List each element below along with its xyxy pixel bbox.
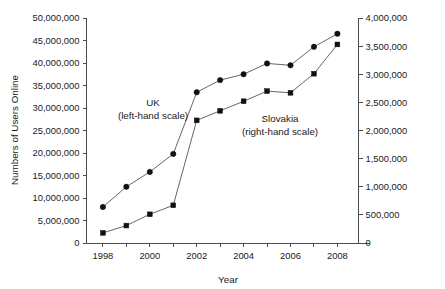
left-axis-ticks (83, 18, 87, 243)
x-tick-label: 2006 (280, 250, 301, 261)
data-point-slovakia (124, 223, 129, 228)
data-point-uk (147, 169, 152, 174)
data-point-slovakia (265, 89, 270, 94)
data-point-slovakia (241, 99, 246, 104)
right-tick-label: 4,000,000 (366, 12, 408, 23)
y-axis-title: Numbers of Users Online (9, 74, 20, 185)
left-tick-label: 30,000,000 (33, 102, 80, 113)
x-tick-label: 2000 (139, 250, 160, 261)
left-tick-label: 10,000,000 (33, 192, 80, 203)
axes-group (87, 18, 371, 244)
slovakia-annotation: Slovakia (right-hand scale) (242, 113, 318, 137)
slovakia-annotation-name: Slovakia (261, 113, 299, 124)
data-point-slovakia (147, 212, 152, 217)
right-tick-label: 0 (366, 237, 371, 248)
data-point-uk (217, 77, 222, 82)
right-tick-label: 2,500,000 (366, 97, 408, 108)
data-point-uk (124, 184, 129, 189)
left-tick-label: 15,000,000 (33, 170, 80, 181)
right-tick-label: 500,000 (366, 209, 400, 220)
right-tick-label: 3,500,000 (366, 41, 408, 52)
left-tick-label: 20,000,000 (33, 147, 80, 158)
right-axis-tick-labels: 4,000,0003,500,0003,000,0002,500,0002,00… (366, 12, 408, 248)
data-point-slovakia (101, 230, 106, 235)
uk-annotation-scale: (left-hand scale) (118, 110, 188, 121)
left-tick-label: 5,000,000 (38, 215, 80, 226)
data-point-slovakia (171, 203, 176, 208)
data-point-uk (100, 204, 105, 209)
data-point-slovakia (218, 108, 223, 113)
x-tick-label: 2004 (233, 250, 254, 261)
data-point-slovakia (194, 118, 199, 123)
x-tick-label: 2008 (327, 250, 348, 261)
left-tick-label: 40,000,000 (33, 57, 80, 68)
x-tick-label: 1998 (92, 250, 113, 261)
left-tick-label: 25,000,000 (33, 125, 80, 136)
data-point-uk (288, 63, 293, 68)
uk-annotation-name: UK (146, 97, 160, 108)
data-point-uk (171, 151, 176, 156)
x-axis-title: Year (218, 274, 239, 285)
right-axis-ticks (359, 18, 363, 243)
right-tick-label: 1,500,000 (366, 153, 408, 164)
left-tick-label: 50,000,000 (33, 12, 80, 23)
data-point-uk (264, 61, 269, 66)
slovakia-annotation-scale: (right-hand scale) (242, 126, 318, 137)
right-tick-label: 1,000,000 (366, 181, 408, 192)
chart-container: 50,000,00045,000,00040,000,00035,000,000… (0, 0, 445, 289)
data-point-uk (335, 31, 340, 36)
data-point-slovakia (312, 71, 317, 76)
left-axis-tick-labels: 50,000,00045,000,00040,000,00035,000,000… (33, 12, 80, 248)
data-point-uk (311, 44, 316, 49)
x-tick-label: 2002 (186, 250, 207, 261)
data-point-uk (194, 90, 199, 95)
data-point-slovakia (335, 42, 340, 47)
data-point-slovakia (288, 90, 293, 95)
left-tick-label: 35,000,000 (33, 80, 80, 91)
uk-annotation: UK (left-hand scale) (118, 97, 188, 121)
data-point-uk (241, 72, 246, 77)
right-tick-label: 2,000,000 (366, 125, 408, 136)
left-tick-label: 0 (74, 237, 79, 248)
left-tick-label: 45,000,000 (33, 35, 80, 46)
line-chart-canvas: 50,000,00045,000,00040,000,00035,000,000… (0, 0, 445, 289)
right-tick-label: 3,000,000 (366, 69, 408, 80)
x-axis-tick-labels: 199820002002200420062008 (92, 250, 347, 261)
series-line-slovakia (103, 44, 337, 232)
